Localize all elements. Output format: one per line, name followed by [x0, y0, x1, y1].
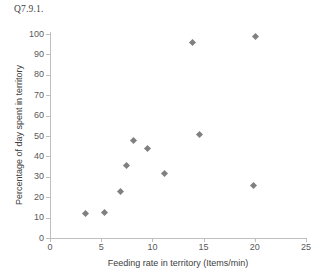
data-point [144, 144, 151, 151]
y-axis-line [50, 32, 51, 239]
x-axis-line [50, 238, 306, 239]
y-axis-tick [46, 218, 50, 219]
x-axis-tick-label: 20 [240, 243, 270, 252]
data-point [250, 182, 257, 189]
y-axis-tick [46, 75, 50, 76]
x-axis-tick-label: 5 [86, 243, 116, 252]
y-axis-tick [46, 54, 50, 55]
y-axis-tick [46, 156, 50, 157]
y-axis-tick [46, 95, 50, 96]
data-point [161, 170, 168, 177]
data-point [123, 162, 130, 169]
scatter-plot: 0102030405060708090100 0510152025 Feedin… [0, 0, 329, 277]
figure-container: Q7.9.1. 0102030405060708090100 051015202… [0, 0, 329, 277]
x-axis-tick-label: 15 [189, 243, 219, 252]
y-axis-title: Percentage of day spent in territory [14, 35, 24, 235]
y-axis-tick [46, 116, 50, 117]
x-axis-title: Feeding rate in territory (Items/min) [50, 258, 306, 268]
x-axis-tick-label: 25 [291, 243, 321, 252]
y-axis-tick [46, 177, 50, 178]
data-point [189, 39, 196, 46]
data-point [196, 131, 203, 138]
data-point [82, 210, 89, 217]
data-point [130, 137, 137, 144]
x-axis-tick-label: 10 [137, 243, 167, 252]
y-axis-tick [46, 34, 50, 35]
data-point [101, 209, 108, 216]
data-point [117, 188, 124, 195]
y-axis-tick [46, 136, 50, 137]
y-axis-tick [46, 197, 50, 198]
data-point [252, 32, 259, 39]
x-axis-tick-label: 0 [35, 243, 65, 252]
